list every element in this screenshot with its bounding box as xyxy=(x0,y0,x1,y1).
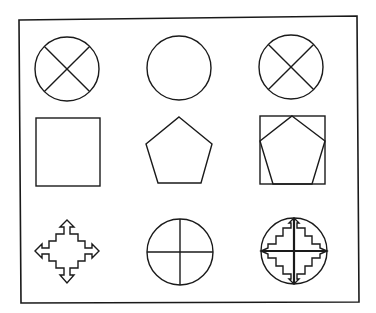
stepped-cross-bottom-left xyxy=(35,220,99,283)
circle-top-middle xyxy=(147,36,211,100)
pentagon-center xyxy=(146,117,212,183)
circle-plus-bottom-middle xyxy=(147,219,213,285)
figure-canvas xyxy=(0,0,376,313)
circle-x-top-left xyxy=(35,37,99,101)
circle-x-top-right xyxy=(259,35,323,99)
outer-frame xyxy=(19,16,359,303)
square-pentagon-middle-right xyxy=(260,116,325,184)
square-middle-left xyxy=(36,118,100,186)
circle-stepped-cross-bottom-right xyxy=(261,218,327,284)
